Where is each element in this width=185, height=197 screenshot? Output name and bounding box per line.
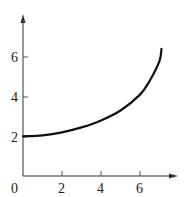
x-axis-arrow-icon [169, 174, 178, 179]
data-curve [23, 49, 161, 136]
y-tick-label-2: 2 [11, 130, 18, 145]
y-axis-arrow-icon [21, 14, 26, 23]
x-tick-label-2: 2 [58, 181, 65, 196]
origin-label: 0 [11, 181, 18, 196]
y-tick-label-6: 6 [11, 50, 18, 65]
x-tick-label-6: 6 [136, 181, 143, 196]
chart-canvas: 0 2 4 6 2 4 6 [0, 0, 185, 197]
y-tick-label-4: 4 [11, 90, 18, 105]
x-tick-label-4: 4 [97, 181, 104, 196]
